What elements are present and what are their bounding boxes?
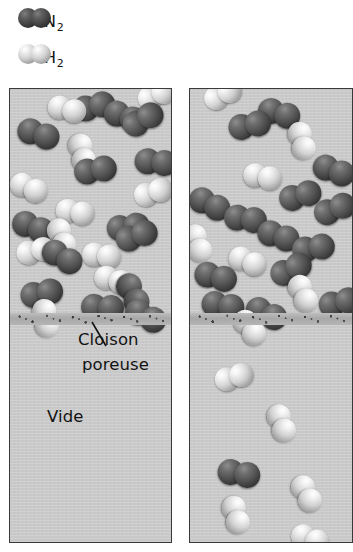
porous-partition-right (190, 313, 352, 325)
legend-item-h2: H2 (18, 44, 64, 70)
panel-before-effusion (9, 88, 172, 543)
legend-subscript-n2: 2 (57, 21, 64, 34)
legend-item-n2: N2 (18, 8, 64, 34)
legend: N2 H2 (0, 0, 180, 82)
partition-label-line1: Cloison (78, 330, 139, 349)
panel-after-effusion (189, 88, 353, 543)
legend-subscript-h2: 2 (57, 57, 64, 70)
partition-callout: Cloison poreuse (78, 330, 178, 390)
partition-label-line2: poreuse (82, 355, 149, 374)
vacuum-label: Vide (47, 407, 84, 426)
